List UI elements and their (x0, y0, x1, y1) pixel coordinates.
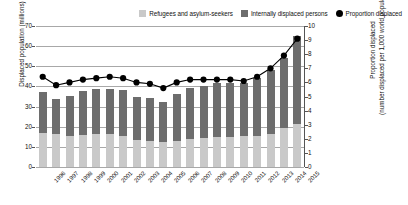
y-axis-right-tick-label: 5 (308, 94, 330, 100)
y-axis-left-tick-label: 30 (10, 104, 32, 110)
y-axis-right-tick-mark (305, 82, 308, 83)
x-axis-tick-label: 2006 (187, 170, 201, 184)
proportion-data-point (241, 78, 247, 84)
x-axis-tick-label: 2000 (106, 170, 120, 184)
proportion-data-point (93, 75, 99, 81)
y-axis-right-tick-label: 10 (308, 23, 330, 29)
y-axis-right-title-line2: (number displaced per 1,000 world popula… (377, 0, 386, 118)
y-axis-left-tick-mark (32, 127, 35, 128)
proportion-data-point (133, 79, 139, 85)
displaced-population-chart: Refugees and asylum-seekers Internally d… (0, 0, 408, 205)
y-axis-right-tick-label: 3 (308, 122, 330, 128)
proportion-data-point (294, 36, 300, 42)
y-axis-right-tick-mark (305, 167, 308, 168)
y-axis-left-tick-label: 50 (10, 63, 32, 69)
x-axis-tick-label: 1999 (93, 170, 107, 184)
legend-label-refugees: Refugees and asylum-seekers (149, 10, 233, 17)
proportion-data-point (107, 74, 113, 80)
y-axis-left-tick-mark (32, 147, 35, 148)
y-axis-right-tick-mark (305, 111, 308, 112)
x-axis-tick-label: 2010 (240, 170, 254, 184)
chart-legend: Refugees and asylum-seekers Internally d… (0, 7, 408, 19)
y-axis-left-tick-label: 20 (10, 124, 32, 130)
proportion-data-point (147, 81, 153, 87)
x-axis-tick-label: 2013 (280, 170, 294, 184)
y-axis-right-title-line1: Proportion displaced (368, 0, 377, 118)
x-axis-tick-label: 2001 (120, 170, 134, 184)
y-axis-right-spine (304, 26, 305, 167)
legend-swatch-idp-icon (241, 10, 248, 17)
proportion-data-point (267, 65, 273, 71)
y-axis-right-tick-mark (305, 54, 308, 55)
y-axis-right-tick-mark (305, 125, 308, 126)
y-axis-right-tick-mark (305, 68, 308, 69)
x-axis-tick-label: 2015 (307, 170, 321, 184)
y-axis-right-tick-mark (305, 97, 308, 98)
legend-label-idp: Internally displaced persons (251, 10, 328, 17)
y-axis-left-tick-label: 0 (10, 164, 32, 170)
x-axis-tick-label: 2007 (200, 170, 214, 184)
proportion-line-series (36, 26, 304, 167)
proportion-data-point (40, 74, 46, 80)
x-axis-tick-label: 1998 (79, 170, 93, 184)
y-axis-right-tick-mark (305, 40, 308, 41)
y-axis-right-tick-mark (305, 26, 308, 27)
proportion-data-point (80, 76, 86, 82)
y-axis-left-tick-mark (32, 107, 35, 108)
y-axis-right-tick-mark (305, 153, 308, 154)
x-axis-tick-label: 2008 (213, 170, 227, 184)
proportion-data-point (160, 85, 166, 91)
proportion-data-point (53, 82, 59, 88)
y-axis-right-tick-label: 8 (308, 51, 330, 57)
x-axis-tick-label: 1997 (66, 170, 80, 184)
y-axis-left-tick-label: 10 (10, 144, 32, 150)
x-axis-tick-label: 2009 (227, 170, 241, 184)
y-axis-right-tick-label: 6 (308, 79, 330, 85)
y-axis-left-tick-mark (32, 86, 35, 87)
x-axis-ticks: 1996199719981999200020012002200320042005… (36, 168, 304, 202)
x-axis-tick-label: 2011 (253, 170, 266, 183)
y-axis-right-tick-label: 1 (308, 150, 330, 156)
x-axis-tick-label: 2014 (294, 170, 308, 184)
x-axis-tick-label: 2002 (133, 170, 147, 184)
proportion-data-point (174, 79, 180, 85)
y-axis-left-tick-mark (32, 66, 35, 67)
y-axis-right-tick-label: 9 (308, 37, 330, 43)
y-axis-right-tick-label: 4 (308, 108, 330, 114)
y-axis-right-title: Proportion displaced (number displaced p… (368, 0, 392, 118)
x-axis-tick-label: 2004 (160, 170, 174, 184)
legend-circle-marker-icon (336, 10, 343, 17)
x-axis-tick-label: 2005 (173, 170, 187, 184)
y-axis-left-tick-mark (32, 46, 35, 47)
y-axis-right-tick-mark (305, 139, 308, 140)
legend-item-refugees: Refugees and asylum-seekers (139, 10, 233, 17)
proportion-data-point (254, 74, 260, 80)
x-axis-tick-label: 2003 (146, 170, 160, 184)
y-axis-right-tick-label: 2 (308, 136, 330, 142)
proportion-data-point (281, 53, 287, 59)
y-axis-right-tick-label: 7 (308, 65, 330, 71)
proportion-data-point (187, 76, 193, 82)
legend-swatch-refugees-icon (139, 10, 146, 17)
proportion-data-point (66, 79, 72, 85)
proportion-data-point (120, 75, 126, 81)
x-axis-tick-label: 1996 (53, 170, 67, 184)
proportion-data-point (227, 76, 233, 82)
y-axis-left-tick-label: 60 (10, 43, 32, 49)
y-axis-right-tick-label: 0 (308, 164, 330, 170)
plot-area: 010203040506070 012345678910 (36, 26, 304, 167)
y-axis-left-tick-mark (32, 26, 35, 27)
y-axis-left-title: Displaced population (millions) (16, 0, 28, 112)
legend-item-idp: Internally displaced persons (241, 10, 328, 17)
proportion-data-point (200, 76, 206, 82)
x-axis-tick-label: 2012 (267, 170, 281, 184)
y-axis-left-tick-label: 70 (10, 23, 32, 29)
y-axis-left-tick-mark (32, 167, 35, 168)
y-axis-left-tick-label: 40 (10, 83, 32, 89)
proportion-data-point (214, 76, 220, 82)
